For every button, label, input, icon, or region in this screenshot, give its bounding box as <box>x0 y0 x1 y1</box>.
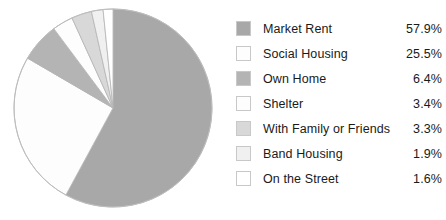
legend-item-value: 6.4% <box>413 72 442 86</box>
legend-item-value: 3.4% <box>413 97 442 111</box>
legend-item-label: Shelter <box>263 97 303 111</box>
legend-item-value: 25.5% <box>406 47 442 61</box>
legend-item-label: Own Home <box>263 72 326 86</box>
legend-item[interactable]: Own Home6.4% <box>236 66 446 91</box>
legend-swatch-with-family-or-friends <box>236 121 251 136</box>
legend-item[interactable]: Shelter3.4% <box>236 91 446 116</box>
legend-swatch-social-housing <box>236 46 251 61</box>
legend-item[interactable]: Social Housing25.5% <box>236 41 446 66</box>
legend-item[interactable]: With Family or Friends3.3% <box>236 116 446 141</box>
legend-swatch-on-the-street <box>236 171 251 186</box>
legend-item-label: Market Rent <box>263 22 332 36</box>
legend-item[interactable]: Band Housing1.9% <box>236 141 446 166</box>
pie-chart-figure: Market Rent57.9%Social Housing25.5%Own H… <box>0 0 446 220</box>
legend-swatch-own-home <box>236 71 251 86</box>
legend-swatch-band-housing <box>236 146 251 161</box>
legend-item-value: 57.9% <box>406 22 442 36</box>
legend-swatch-shelter <box>236 96 251 111</box>
legend-item-label: On the Street <box>263 172 339 186</box>
legend-swatch-market-rent <box>236 21 251 36</box>
legend-item-label: With Family or Friends <box>263 122 390 136</box>
legend-item-label: Band Housing <box>263 147 343 161</box>
legend-item-value: 1.9% <box>413 147 442 161</box>
chart-legend: Market Rent57.9%Social Housing25.5%Own H… <box>236 16 446 191</box>
legend-item-value: 1.6% <box>413 172 442 186</box>
pie-chart-svg <box>0 0 228 220</box>
legend-item-value: 3.3% <box>413 122 442 136</box>
legend-item[interactable]: Market Rent57.9% <box>236 16 446 41</box>
legend-item[interactable]: On the Street1.6% <box>236 166 446 191</box>
pie-chart-plot-area <box>0 0 228 220</box>
legend-item-label: Social Housing <box>263 47 348 61</box>
